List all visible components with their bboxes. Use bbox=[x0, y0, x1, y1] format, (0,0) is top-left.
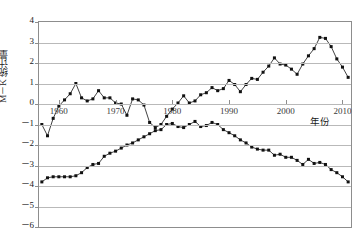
y-tick-mark bbox=[35, 166, 39, 167]
data-point-uf bbox=[313, 47, 316, 50]
data-point-ub bbox=[74, 174, 77, 177]
data-point-ub bbox=[57, 175, 60, 178]
data-point-ub bbox=[199, 125, 202, 128]
data-point-uf bbox=[211, 86, 214, 89]
data-point-ub bbox=[290, 156, 293, 159]
data-point-ub bbox=[52, 175, 55, 178]
data-point-uf bbox=[103, 96, 106, 99]
data-point-uf bbox=[296, 73, 299, 76]
gridline bbox=[39, 186, 351, 187]
data-point-ub bbox=[40, 180, 43, 183]
data-point-ub bbox=[330, 168, 333, 171]
data-point-ub bbox=[307, 158, 310, 161]
data-point-ub bbox=[159, 128, 162, 131]
data-point-ub bbox=[267, 149, 270, 152]
data-point-ub bbox=[256, 148, 259, 151]
data-point-uf bbox=[194, 99, 197, 102]
y-tick-mark bbox=[35, 104, 39, 105]
data-point-ub bbox=[228, 131, 231, 134]
y-tick-mark bbox=[35, 207, 39, 208]
data-point-uf bbox=[262, 71, 265, 74]
data-point-uf bbox=[86, 99, 89, 102]
gridline bbox=[39, 145, 351, 146]
data-point-uf bbox=[341, 66, 344, 69]
gridline bbox=[39, 104, 351, 105]
data-point-ub bbox=[114, 150, 117, 153]
y-tick-label: 0 bbox=[30, 98, 35, 107]
data-point-uf bbox=[256, 78, 259, 81]
data-point-ub bbox=[63, 175, 66, 178]
data-point-ub bbox=[69, 175, 72, 178]
data-point-ub bbox=[335, 171, 338, 174]
data-point-uf bbox=[335, 57, 338, 60]
y-tick-mark bbox=[35, 22, 39, 23]
y-tick-label-column: 43210－1－2－3－4－5－6 bbox=[0, 0, 34, 246]
gridline bbox=[39, 43, 351, 44]
y-tick-label: －3 bbox=[21, 160, 35, 169]
data-point-ub bbox=[239, 138, 242, 141]
x-tick-label: 1960 bbox=[50, 107, 68, 116]
data-point-ub bbox=[279, 153, 282, 156]
data-point-ub bbox=[142, 135, 145, 138]
data-point-ub bbox=[347, 180, 350, 183]
data-point-uf bbox=[347, 76, 350, 79]
data-point-uf bbox=[290, 68, 293, 71]
mk-statistic-chart: M－K 统计量 43210－1－2－3－4－5－6 19601970198019… bbox=[0, 0, 363, 246]
data-point-uf bbox=[318, 36, 321, 39]
x-tick-mark bbox=[229, 100, 230, 104]
data-point-uf bbox=[108, 96, 111, 99]
data-point-uf bbox=[46, 134, 49, 137]
data-point-ub bbox=[273, 154, 276, 157]
data-point-ub bbox=[86, 166, 89, 169]
y-tick-mark bbox=[35, 186, 39, 187]
x-tick-mark bbox=[342, 100, 343, 104]
data-point-uf bbox=[199, 93, 202, 96]
data-point-uf bbox=[239, 90, 242, 93]
x-tick-label: 1980 bbox=[163, 107, 181, 116]
data-point-ub bbox=[131, 141, 134, 144]
data-point-ub bbox=[250, 146, 253, 149]
gridline bbox=[39, 166, 351, 167]
data-point-uf bbox=[222, 87, 225, 90]
data-point-ub bbox=[148, 132, 151, 135]
data-point-uf bbox=[267, 65, 270, 68]
data-point-uf bbox=[216, 89, 219, 92]
y-tick-label: －1 bbox=[21, 119, 35, 128]
x-tick-mark bbox=[116, 100, 117, 104]
x-tick-label: 1970 bbox=[107, 107, 125, 116]
data-point-uf bbox=[97, 89, 100, 92]
y-tick-mark bbox=[35, 43, 39, 44]
data-point-ub bbox=[194, 120, 197, 123]
data-point-ub bbox=[120, 147, 123, 150]
data-point-ub bbox=[313, 162, 316, 165]
data-point-uf bbox=[307, 54, 310, 57]
data-point-ub bbox=[318, 161, 321, 164]
y-tick-label: －5 bbox=[21, 201, 35, 210]
y-tick-label: －6 bbox=[21, 221, 35, 230]
data-point-ub bbox=[284, 156, 287, 159]
data-point-uf bbox=[131, 97, 134, 100]
data-point-uf bbox=[273, 56, 276, 59]
data-point-ub bbox=[108, 152, 111, 155]
data-point-ub bbox=[341, 175, 344, 178]
y-tick-mark bbox=[35, 227, 39, 228]
data-point-ub bbox=[154, 129, 157, 132]
data-point-ub bbox=[103, 155, 106, 158]
data-point-ub bbox=[245, 141, 248, 144]
data-point-ub bbox=[46, 176, 49, 179]
data-point-ub bbox=[182, 126, 185, 129]
data-point-uf bbox=[228, 79, 231, 82]
data-point-ub bbox=[211, 121, 214, 124]
data-point-uf bbox=[324, 37, 327, 40]
data-point-uf bbox=[125, 114, 128, 117]
data-point-ub bbox=[233, 134, 236, 137]
data-point-uf bbox=[154, 126, 157, 129]
data-point-uf bbox=[148, 121, 151, 124]
y-tick-label: 4 bbox=[30, 16, 35, 25]
y-tick-label: 1 bbox=[30, 78, 35, 87]
x-tick-mark bbox=[172, 100, 173, 104]
data-point-uf bbox=[205, 91, 208, 94]
data-point-uf bbox=[63, 98, 66, 101]
gridline bbox=[39, 125, 351, 126]
data-point-uf bbox=[250, 77, 253, 80]
